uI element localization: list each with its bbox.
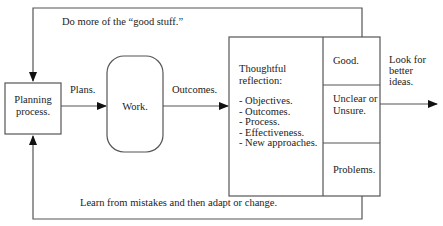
unclear-label-line1: Unclear or: [333, 93, 378, 105]
output-label-line2: better: [389, 65, 426, 76]
output-label-line1: Look for: [389, 54, 426, 65]
unclear-label-line2: Unsure.: [333, 105, 378, 117]
reflection-title: Thoughtful reflection:: [239, 63, 286, 87]
output-label-line3: ideas.: [389, 76, 426, 87]
outcomes-label: Outcomes.: [172, 84, 217, 96]
planning-process-label: Planning process.: [5, 94, 61, 118]
output-label: Look for better ideas.: [389, 54, 426, 87]
reflection-items-list: - Objectives. - Outcomes. - Process. - E…: [239, 96, 317, 149]
top-loop-label: Do more of the “good stuff.”: [62, 16, 183, 28]
work-label: Work.: [107, 101, 163, 113]
unclear-label: Unclear or Unsure.: [333, 93, 378, 117]
reflection-item-new-approaches: - New approaches.: [239, 138, 317, 149]
reflection-title-line2: reflection:: [239, 75, 286, 87]
plans-label: Plans.: [70, 84, 95, 96]
reflection-item-process: - Process.: [239, 117, 317, 128]
good-label: Good.: [333, 55, 359, 67]
planning-label-line2: process.: [5, 106, 61, 118]
planning-label-line1: Planning: [5, 94, 61, 106]
bottom-loop-label: Learn from mistakes and then adapt or ch…: [80, 197, 277, 209]
problems-label: Problems.: [333, 164, 375, 176]
reflection-title-line1: Thoughtful: [239, 63, 286, 75]
reflection-item-objectives: - Objectives.: [239, 96, 317, 107]
